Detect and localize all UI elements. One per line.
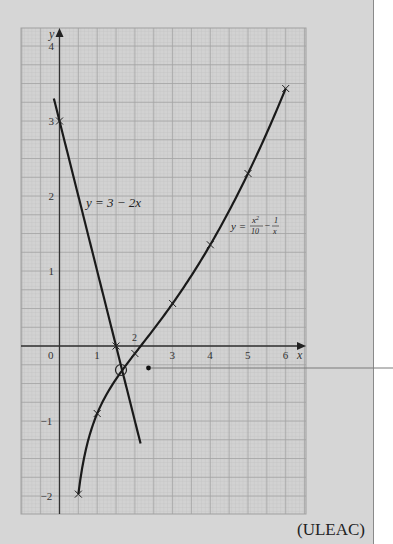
y-tick-label: 3 <box>49 115 55 127</box>
x-axis-label: x <box>296 348 303 362</box>
y-tick-label: −2 <box>41 490 53 502</box>
y-axis-label: y <box>48 27 55 41</box>
svg-text:10: 10 <box>251 227 259 236</box>
svg-text:−: − <box>264 220 271 231</box>
source-label: (ULEAC) <box>297 520 365 540</box>
y-tick-label: 1 <box>49 265 55 277</box>
line-label: y = 3 − 2x <box>84 195 141 210</box>
svg-text:y =: y = <box>230 220 246 232</box>
small-two-label: 2 <box>132 332 137 343</box>
origin-label: 0 <box>48 349 54 361</box>
y-tick-label: 4 <box>49 40 55 52</box>
grid <box>21 28 306 514</box>
svg-text:x: x <box>272 227 277 236</box>
x-tick-label: 5 <box>245 349 251 361</box>
svg-text:1: 1 <box>274 216 278 225</box>
x-tick-label: 3 <box>170 349 176 361</box>
leader-dot <box>146 366 151 371</box>
y-tick-label: −1 <box>41 415 53 427</box>
x-tick-label: 1 <box>94 349 100 361</box>
y-tick-label: 2 <box>49 190 55 202</box>
x-tick-label: 6 <box>283 349 289 361</box>
x-tick-label: 4 <box>207 349 213 361</box>
graph-plot: 13456−2−11234 x y 0 2 y = 3 − 2x y = x2 … <box>0 0 393 544</box>
